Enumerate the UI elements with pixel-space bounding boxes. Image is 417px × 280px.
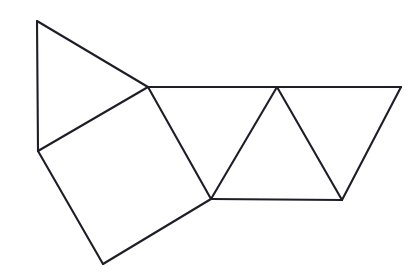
edge-E-H [211,199,342,200]
edge-A-B [37,21,38,151]
geometric-net-figure [0,0,417,280]
figure-canvas [0,0,417,280]
